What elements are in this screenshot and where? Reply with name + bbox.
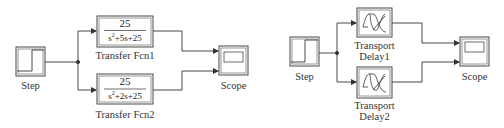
tf1-denominator: s2+5s+25 xyxy=(97,32,153,43)
wire-tf2-scope xyxy=(153,71,218,90)
tf1-label: Transfer Fcn1 xyxy=(85,50,165,61)
wire-tf1-scope xyxy=(153,31,218,51)
td1-label-line1: Transport xyxy=(344,40,405,51)
diagram-canvas xyxy=(0,0,504,128)
scope-label-right: Scope xyxy=(452,71,497,82)
td1-label-line2: Delay1 xyxy=(344,51,405,62)
tf2-label: Transfer Fcn2 xyxy=(85,109,165,120)
tf2-denominator: s2+2s+25 xyxy=(97,90,153,101)
wire-td2-scope xyxy=(392,62,459,82)
step-label-right: Step xyxy=(284,71,325,82)
transport-delay2-block[interactable] xyxy=(357,67,392,98)
scope-block-right[interactable] xyxy=(460,37,489,66)
tf2-numerator: 25 xyxy=(97,75,153,87)
step-block-left[interactable] xyxy=(16,47,45,76)
transport-delay1-block[interactable] xyxy=(357,8,392,37)
td2-label-line1: Transport xyxy=(344,100,405,111)
step-block-right[interactable] xyxy=(290,37,319,66)
td2-label-line2: Delay2 xyxy=(344,111,405,122)
scope-label-left: Scope xyxy=(211,80,256,91)
scope-block-left[interactable] xyxy=(219,46,248,75)
branch-point-left xyxy=(76,60,79,63)
tf1-numerator: 25 xyxy=(97,17,153,29)
branch-point-right xyxy=(335,51,338,54)
step-label-left: Step xyxy=(10,80,51,91)
